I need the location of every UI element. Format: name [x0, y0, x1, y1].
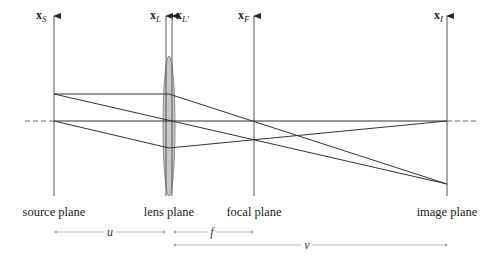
lens-shape: [163, 56, 175, 196]
axis-label-focal: xF: [238, 8, 250, 23]
image-plane-label: image plane: [417, 205, 478, 220]
rays: [54, 94, 447, 184]
lens-plane-label: lens plane: [144, 205, 194, 220]
focal-plane-label: focal plane: [226, 205, 281, 220]
source-plane-label: source plane: [23, 205, 86, 220]
u-dimension-label: u: [104, 225, 116, 240]
v-dimension-label: v: [301, 238, 312, 253]
axis-label-lens-prime: xL′: [176, 8, 189, 23]
axis-label-source: xS: [36, 8, 47, 23]
plane-lines: [54, 16, 447, 196]
f-dimension-label: f: [207, 225, 216, 240]
axis-label-lens: xL: [150, 8, 161, 23]
axis-label-image: xI: [434, 8, 443, 23]
thin-lens-diagram: xS xL xL′ xF xI source plane lens plane …: [0, 0, 496, 261]
diagram-canvas: [0, 0, 496, 261]
